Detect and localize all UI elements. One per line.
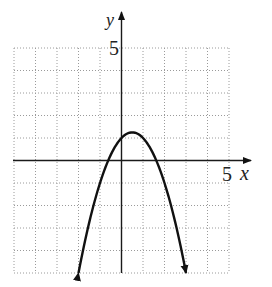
y-tick-label: 5 [109, 37, 119, 59]
graph-canvas: y 5 5 x [0, 0, 272, 287]
x-axis-label: x [239, 162, 249, 184]
y-axis-label: y [104, 10, 114, 30]
parabola-curve [79, 132, 187, 273]
x-tick-label: 5 [222, 163, 232, 185]
